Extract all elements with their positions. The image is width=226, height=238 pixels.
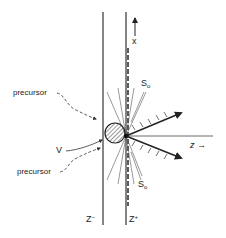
s0-top-label: So	[141, 79, 150, 89]
s0-bottom-label: So	[138, 180, 147, 190]
s0-top-leader	[131, 92, 144, 122]
s0-top-sub: o	[147, 83, 150, 89]
precursor-top-leader	[57, 93, 96, 119]
diagram-canvas	[0, 0, 226, 238]
z-axis-label: z →	[190, 141, 206, 150]
precursor-bottom-leader	[60, 148, 100, 172]
x-axis-label: x	[132, 37, 137, 46]
volume-circle	[105, 123, 125, 143]
z-minus-sup: −	[92, 214, 96, 220]
center-point	[124, 134, 128, 138]
s0-bottom-sub: o	[144, 184, 147, 190]
lower-wave-arrow	[126, 136, 181, 158]
precursor-top-label: precursor	[13, 89, 47, 97]
v-label: V	[56, 146, 62, 155]
z-plus-sup: +	[135, 214, 139, 220]
v-leader	[66, 140, 102, 151]
upper-wave-arrow	[126, 113, 181, 136]
z-axis-letter: z	[190, 140, 195, 150]
z-plus-label: Z+	[129, 214, 138, 224]
precursor-bottom-label: precursor	[17, 168, 51, 176]
z-axis-arrow-icon: →	[197, 140, 206, 150]
z-minus-label: Z−	[86, 214, 95, 224]
diagram: x So So precursor precursor V z → Z− Z+	[0, 0, 226, 238]
